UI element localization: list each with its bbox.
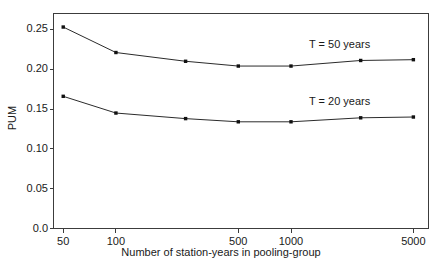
y-axis-title: PUM	[6, 88, 18, 148]
data-point-s0-2	[184, 60, 187, 63]
data-point-s1-3	[237, 120, 240, 123]
data-point-s1-0	[62, 95, 65, 98]
axes-group	[54, 14, 429, 229]
data-point-s0-6	[412, 58, 415, 61]
x-tick-label-0: 50	[38, 236, 88, 247]
data-point-s1-4	[289, 120, 292, 123]
series-label-1: T = 20 years	[309, 95, 370, 107]
chart-figure: 0.00.050.100.150.200.25 5010050010005000…	[0, 0, 442, 267]
y-tick-label-0: 0.0	[8, 223, 48, 234]
y-tick-label-5: 0.25	[8, 23, 48, 34]
data-point-s0-1	[114, 51, 117, 54]
x-axis-title: Number of station-years in pooling-group	[0, 246, 442, 258]
data-point-s0-4	[289, 64, 292, 67]
data-point-s1-1	[114, 111, 117, 114]
data-point-s1-6	[412, 115, 415, 118]
data-point-s1-2	[184, 117, 187, 120]
x-tick-label-3: 1000	[266, 236, 316, 247]
y-tick-label-4: 0.20	[8, 63, 48, 74]
plot-canvas	[0, 0, 442, 267]
x-tick-label-4: 5000	[388, 236, 438, 247]
ticks-group	[50, 29, 414, 232]
data-point-s0-5	[359, 59, 362, 62]
data-point-s1-5	[359, 116, 362, 119]
x-tick-label-1: 100	[91, 236, 141, 247]
series-label-0: T = 50 years	[309, 38, 370, 50]
plot-frame	[54, 14, 429, 229]
x-tick-label-2: 500	[213, 236, 263, 247]
data-point-s0-0	[62, 25, 65, 28]
y-tick-label-1: 0.05	[8, 183, 48, 194]
data-point-s0-3	[237, 64, 240, 67]
